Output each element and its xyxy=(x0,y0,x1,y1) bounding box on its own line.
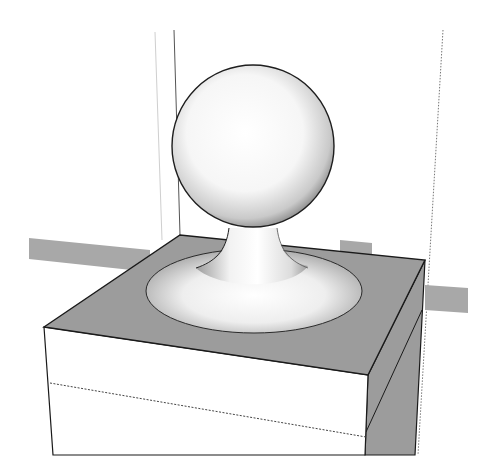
finial-sphere xyxy=(172,65,334,227)
guide-line-right xyxy=(418,30,443,455)
guide-line-left xyxy=(155,32,162,240)
axis-bar-right xyxy=(425,285,468,313)
model-viewport[interactable] xyxy=(0,0,492,473)
model-render xyxy=(0,0,492,473)
